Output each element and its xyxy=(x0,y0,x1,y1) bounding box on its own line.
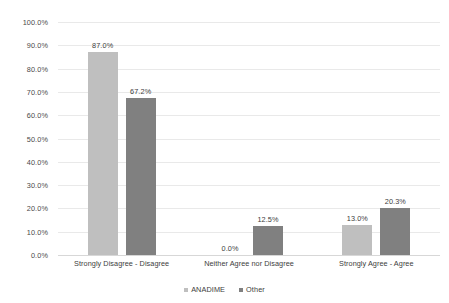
y-axis-tick-label: 80.0% xyxy=(27,64,48,73)
plot-area: 87.0%67.2%0.0%12.5%13.0%20.3% xyxy=(58,22,440,255)
category-axis-label: Strongly Agree - Agree xyxy=(339,259,414,268)
bar-value-label: 12.5% xyxy=(257,215,278,224)
legend-label: ANADIME xyxy=(191,285,225,294)
y-axis-tick-label: 100.0% xyxy=(23,18,48,27)
bar-value-label: 13.0% xyxy=(347,214,368,223)
bar-other-2[interactable] xyxy=(380,208,410,255)
bar-value-label: 20.3% xyxy=(385,197,406,206)
gridline xyxy=(58,22,440,23)
y-axis-tick-label: 30.0% xyxy=(27,181,48,190)
bar-chart: 87.0%67.2%0.0%12.5%13.0%20.3% 0.0%10.0%2… xyxy=(0,0,449,303)
bar-anadime-0[interactable] xyxy=(88,52,118,255)
y-axis-tick-label: 10.0% xyxy=(27,227,48,236)
legend-swatch-icon xyxy=(239,288,243,292)
y-axis-tick-label: 0.0% xyxy=(31,251,48,260)
y-axis: 0.0%10.0%20.0%30.0%40.0%50.0%60.0%70.0%8… xyxy=(0,22,54,255)
bar-other-0[interactable] xyxy=(126,98,156,255)
legend-label: Other xyxy=(246,285,265,294)
y-axis-tick-label: 90.0% xyxy=(27,41,48,50)
y-axis-tick-label: 70.0% xyxy=(27,87,48,96)
gridline xyxy=(58,45,440,46)
axis-baseline xyxy=(58,255,440,256)
category-axis: Strongly Disagree - DisagreeNeither Agre… xyxy=(58,259,440,273)
bar-value-label: 87.0% xyxy=(92,41,113,50)
legend-item-anadime[interactable]: ANADIME xyxy=(184,285,225,294)
bar-anadime-2[interactable] xyxy=(342,225,372,255)
y-axis-tick-label: 60.0% xyxy=(27,111,48,120)
bar-value-label: 0.0% xyxy=(221,244,238,253)
legend-item-other[interactable]: Other xyxy=(239,285,265,294)
chart-legend: ANADIMEOther xyxy=(0,285,449,294)
bar-value-label: 67.2% xyxy=(130,87,151,96)
y-axis-tick-label: 20.0% xyxy=(27,204,48,213)
y-axis-tick-label: 50.0% xyxy=(27,134,48,143)
category-axis-label: Neither Agree nor Disagree xyxy=(204,259,294,268)
bar-other-1[interactable] xyxy=(253,226,283,255)
legend-swatch-icon xyxy=(184,288,188,292)
category-axis-label: Strongly Disagree - Disagree xyxy=(74,259,169,268)
y-axis-tick-label: 40.0% xyxy=(27,157,48,166)
